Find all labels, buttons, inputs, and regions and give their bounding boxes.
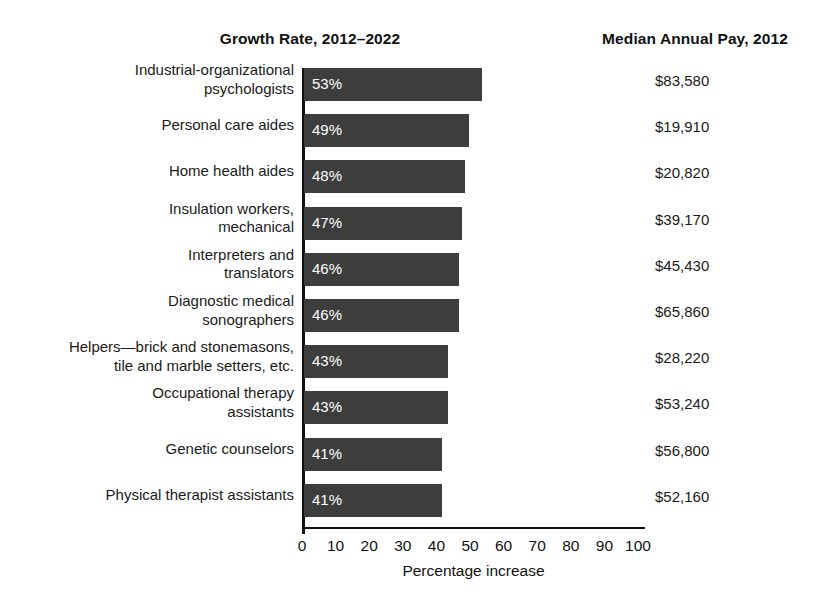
x-axis-tick-label: 70 [529,537,546,555]
x-axis-tick-labels: 0102030405060708090100 [0,537,815,557]
x-axis-tick-label: 40 [428,537,445,555]
chart-row: Genetic counselors41%$56,800 [0,432,815,478]
bar: 46% [304,253,459,286]
category-label: Physical therapist assistants [0,486,294,505]
x-axis-tick-label: 60 [495,537,512,555]
x-axis-tick-label: 80 [562,537,579,555]
chart-row: Home health aides48%$20,820 [0,154,815,200]
median-pay-value: $19,910 [655,118,815,135]
bar-value-label: 41% [312,490,342,510]
bar: 47% [304,207,462,240]
category-label: Interpreters and translators [0,246,294,283]
category-label: Industrial-organizational psychologists [0,61,294,98]
median-pay-value: $65,860 [655,303,815,320]
bar-value-label: 46% [312,259,342,279]
median-pay-column-header: Median Annual Pay, 2012 [575,30,815,48]
median-pay-value: $20,820 [655,164,815,181]
bar: 41% [304,438,442,471]
category-label: Home health aides [0,162,294,181]
bar-value-label: 48% [312,166,342,186]
bar-value-label: 46% [312,305,342,325]
bar: 53% [304,68,482,101]
bar: 48% [304,160,465,193]
chart-row: Personal care aides49%$19,910 [0,108,815,154]
growth-rate-column-header: Growth Rate, 2012–2022 [150,30,470,48]
bar: 46% [304,299,459,332]
x-axis-tick-label: 20 [361,537,378,555]
median-pay-value: $83,580 [655,72,815,89]
category-label: Occupational therapy assistants [0,384,294,421]
x-axis-tick-label: 90 [596,537,613,555]
x-axis-tick-label: 30 [394,537,411,555]
median-pay-value: $28,220 [655,349,815,366]
bar-value-label: 53% [312,74,342,94]
bar-value-label: 43% [312,351,342,371]
chart-row: Industrial-organizational psychologists5… [0,62,815,108]
median-pay-value: $53,240 [655,395,815,412]
median-pay-value: $52,160 [655,488,815,505]
x-axis-line [302,527,645,529]
median-pay-value: $45,430 [655,257,815,274]
chart-row: Occupational therapy assistants43%$53,24… [0,385,815,431]
x-axis-tick-label: 50 [461,537,478,555]
category-label: Genetic counselors [0,440,294,459]
bar: 41% [304,484,442,517]
bar-value-label: 47% [312,213,342,233]
bar: 43% [304,391,448,424]
growth-rate-chart: Growth Rate, 2012–2022 Median Annual Pay… [0,0,815,606]
category-label: Diagnostic medical sonographers [0,292,294,329]
x-axis-tick-label: 0 [298,537,307,555]
bar-value-label: 41% [312,444,342,464]
x-axis-zero-tick [302,527,305,534]
bar-value-label: 43% [312,397,342,417]
category-label: Personal care aides [0,116,294,135]
median-pay-value: $39,170 [655,211,815,228]
median-pay-value: $56,800 [655,442,815,459]
plot-area: Industrial-organizational psychologists5… [0,62,815,528]
x-axis-title: Percentage increase [302,562,645,580]
category-label: Helpers—brick and stonemasons, tile and … [0,338,294,375]
chart-row: Helpers—brick and stonemasons, tile and … [0,339,815,385]
x-axis-tick-label: 10 [327,537,344,555]
bar: 49% [304,114,469,147]
chart-row: Physical therapist assistants41%$52,160 [0,478,815,524]
chart-row: Diagnostic medical sonographers46%$65,86… [0,293,815,339]
bar-value-label: 49% [312,120,342,140]
x-axis-tick-label: 100 [625,537,651,555]
chart-row: Insulation workers, mechanical47%$39,170 [0,201,815,247]
bar: 43% [304,345,448,378]
category-label: Insulation workers, mechanical [0,200,294,237]
chart-row: Interpreters and translators46%$45,430 [0,247,815,293]
